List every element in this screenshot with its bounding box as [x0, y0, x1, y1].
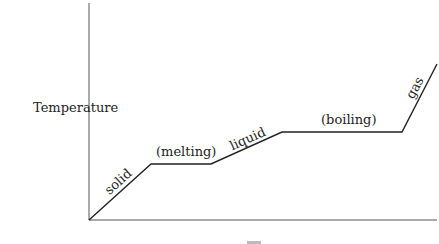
- solid-label: solid: [101, 166, 134, 198]
- liquid-label: liquid: [227, 124, 267, 153]
- boiling-label: (boiling): [321, 112, 376, 127]
- y-axis-label: Temperature: [33, 100, 118, 115]
- melting-label: (melting): [156, 144, 216, 159]
- heating-curve-diagram: Temperature solid (melting) liquid (boil…: [0, 0, 439, 244]
- gas-label: gas: [403, 74, 427, 101]
- heating-curve-line: [89, 64, 437, 220]
